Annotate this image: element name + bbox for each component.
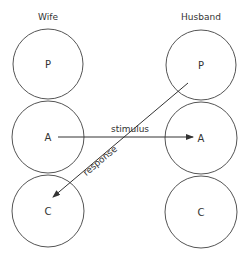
wife-child-state: C <box>12 175 84 247</box>
husband-adult-label: A <box>198 133 205 144</box>
wife-adult-label: A <box>45 132 52 143</box>
stimulus-arrow: stimulus <box>58 124 193 137</box>
wife-child-label: C <box>45 206 52 217</box>
husband-parent-state: P <box>166 30 236 100</box>
wife-column-label: Wife <box>38 12 58 22</box>
wife-parent-state: P <box>13 29 83 99</box>
husband-child-label: C <box>198 207 205 218</box>
husband-parent-label: P <box>198 60 204 71</box>
wife-parent-label: P <box>45 59 51 70</box>
husband-adult-state: A <box>165 102 237 174</box>
response-label: response <box>81 143 119 177</box>
husband-column-label: Husband <box>181 12 221 22</box>
husband-child-state: C <box>165 176 237 248</box>
ta-diagram: Wife Husband P A C P A C stimulus respon… <box>0 0 249 260</box>
response-arrow: response <box>53 83 188 197</box>
